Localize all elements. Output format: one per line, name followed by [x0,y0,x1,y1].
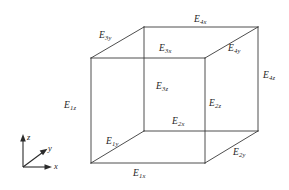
edge-label-E4z: E4z [263,71,275,81]
edge-label-E1x-subscript: 1x [139,172,145,179]
cube-edge-labeling-figure: E3y E3x E4x E4y E4z E3z E2z E2x E1z E1y … [0,0,289,190]
edge-label-E2x-subscript: 2x [178,120,184,127]
edge-label-E1y: E1y [106,137,118,147]
edge-label-E3z-subscript: 3z [162,85,168,92]
edge-label-E3x: E3x [159,44,171,54]
edge-label-E1z-subscript: 1z [70,104,76,111]
edge-depth-bottom-left [91,131,144,163]
cube-wireframe-drawing [0,0,289,190]
edge-label-E4x: E4x [194,15,206,25]
edge-label-E4x-subscript: 4x [200,18,206,25]
edge-label-E1x: E1x [133,169,145,179]
edge-label-E1y-subscript: 1y [112,140,118,147]
edge-label-E3y-subscript: 3y [105,34,111,41]
edge-label-E1z: E1z [64,101,76,111]
edge-depth-bottom-right [205,131,258,163]
edge-label-E4z-subscript: 4z [269,74,275,81]
edge-label-E2y: E2y [233,148,245,158]
edge-label-E2x: E2x [172,117,184,127]
edge-label-E4y: E4y [228,44,240,54]
axis-label-z: z [27,133,30,142]
axis-label-x: x [54,162,58,171]
x-axis-arrowhead [45,164,53,170]
front-face-edges [91,58,205,163]
edge-label-E2y-subscript: 2y [239,151,245,158]
z-axis-arrowhead [20,134,26,142]
edge-label-E4y-subscript: 4y [234,47,240,54]
edge-label-E3z: E3z [156,82,168,92]
edge-label-E3x-subscript: 3x [165,47,171,54]
edge-label-E3y: E3y [99,31,111,41]
edge-label-E2z-subscript: 2z [215,102,221,109]
edge-label-E2z: E2z [209,99,221,109]
axis-label-y: y [48,144,52,153]
y-axis-line [23,153,43,168]
